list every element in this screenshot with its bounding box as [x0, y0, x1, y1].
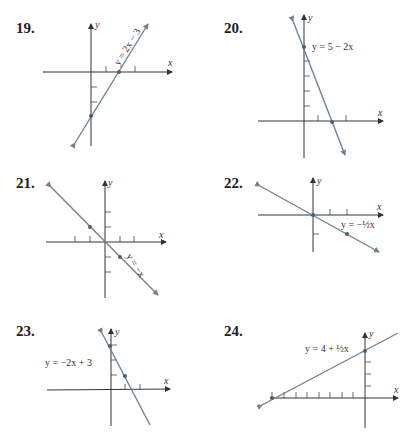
graphs-canvas: x y y = 2x − 3 x y y = 5 − 2x x y y = −x… [0, 0, 400, 443]
svg-text:x: x [163, 375, 169, 386]
equation-label-19: y = 2x − 3 [111, 26, 142, 67]
graph-24: x y y = 4 + ½x [262, 328, 399, 428]
svg-text:y: y [307, 12, 313, 23]
svg-text:x: x [376, 201, 382, 212]
graph-22: x y y = −½x [258, 175, 383, 252]
svg-text:x: x [158, 229, 164, 240]
svg-text:x: x [393, 384, 399, 395]
x-axis-label: x [167, 57, 173, 68]
graph-21: x y y = −x [46, 177, 166, 298]
svg-text:x: x [377, 107, 383, 118]
graph-23: x y y = −2x + 3 [45, 326, 170, 426]
svg-text:y: y [368, 328, 374, 339]
equation-label-22: y = −½x [341, 219, 375, 230]
svg-text:y: y [316, 175, 322, 186]
equation-label-23: y = −2x + 3 [45, 357, 92, 368]
y-axis-label: y [94, 19, 100, 30]
line-19 [75, 24, 148, 143]
svg-text:y: y [107, 177, 113, 188]
equation-label-24: y = 4 + ½x [305, 343, 349, 354]
graph-20: x y y = 5 − 2x [258, 12, 383, 158]
equation-label-20: y = 5 − 2x [312, 41, 353, 52]
graph-19: x y y = 2x − 3 [43, 19, 173, 146]
svg-text:y: y [114, 326, 120, 337]
